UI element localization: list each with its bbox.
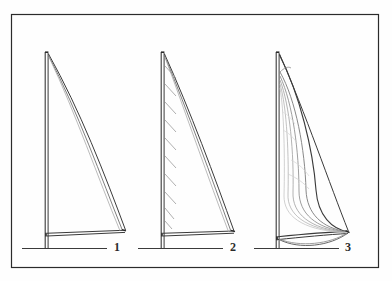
panel-3-label: 3	[345, 241, 351, 253]
panel-2-label: 2	[230, 241, 236, 253]
panel-1-label: 1	[114, 241, 120, 253]
figure-background	[0, 0, 392, 281]
sail-diagram-figure: 1 2 3	[0, 0, 392, 281]
sail-diagram-canvas	[0, 0, 392, 281]
